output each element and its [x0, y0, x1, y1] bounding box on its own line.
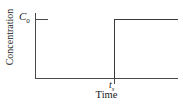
y-axis-tick-c0: [36, 19, 48, 20]
y-tick-label-c0: C0: [19, 11, 30, 25]
curve-plateau-segment: [114, 19, 178, 20]
curve-step-riser: [114, 19, 115, 79]
y-axis-line: [35, 13, 36, 79]
y-axis-title: Concentration: [5, 6, 15, 68]
y-tick-label-subscript: 0: [26, 17, 30, 25]
step-function-chart: C0 ts Concentration Time: [0, 0, 183, 106]
x-axis-title: Time: [35, 90, 178, 101]
curve-baseline-segment: [35, 78, 114, 79]
